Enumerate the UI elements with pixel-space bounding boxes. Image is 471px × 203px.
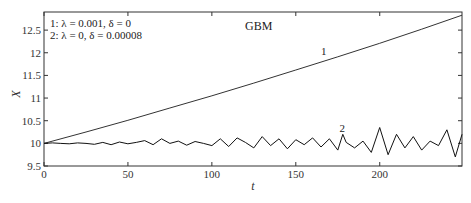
- x-tick-label: 100: [204, 168, 221, 180]
- y-tick-label: 12.5: [22, 24, 42, 36]
- x-tick-label: 0: [41, 168, 47, 180]
- y-tick-label: 9.5: [27, 160, 41, 172]
- x-tick-label: 50: [122, 168, 134, 180]
- gbm-line-chart: 9.51010.51111.51212.5 050100150200 1 2 1…: [0, 0, 471, 203]
- y-tick-label: 11.5: [22, 69, 41, 81]
- y-tick-label: 10: [30, 137, 42, 149]
- legend-entry-2: 2: λ = 0, δ = 0.00008: [50, 29, 142, 41]
- y-tick-label: 12: [30, 47, 41, 59]
- series-1-label: 1: [321, 45, 327, 57]
- y-tick-label: 11: [30, 92, 41, 104]
- y-axis-label: X: [9, 90, 23, 99]
- y-axis-ticks: 9.51010.51111.51212.5: [22, 24, 462, 172]
- y-tick-label: 10.5: [22, 115, 42, 127]
- series-2-line: [44, 128, 462, 157]
- series-2-label: 2: [339, 122, 345, 134]
- chart-title: GBM: [245, 19, 273, 33]
- legend-entry-1: 1: λ = 0.001, δ = 0: [50, 17, 131, 29]
- x-tick-label: 150: [288, 168, 305, 180]
- x-axis-label: t: [251, 179, 255, 193]
- x-tick-label: 200: [371, 168, 388, 180]
